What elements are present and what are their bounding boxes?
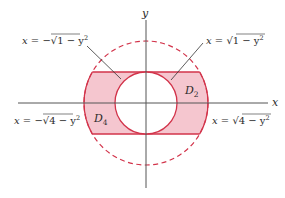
y-axis-label: y bbox=[141, 7, 149, 20]
svg-text:x = √4 − y2: x = √4 − y2 bbox=[212, 114, 270, 126]
svg-text:x = −√1 − y2: x = −√1 − y2 bbox=[22, 34, 88, 46]
label-outer-left: x = −√4 − y2 bbox=[14, 114, 80, 126]
label-inner-right: x = √1 − y2 bbox=[206, 34, 265, 46]
svg-text:x = −√4 − y2: x = −√4 − y2 bbox=[14, 114, 80, 126]
svg-text:x = √1 − y2: x = √1 − y2 bbox=[206, 34, 264, 46]
region-diagram: x y D2 D4 x = −√1 − y2 x = √1 − y2 x = −… bbox=[0, 0, 285, 198]
label-inner-left: x = −√1 − y2 bbox=[22, 34, 88, 46]
label-outer-right: x = √4 − y2 bbox=[212, 114, 271, 126]
x-axis-label: x bbox=[272, 96, 279, 109]
